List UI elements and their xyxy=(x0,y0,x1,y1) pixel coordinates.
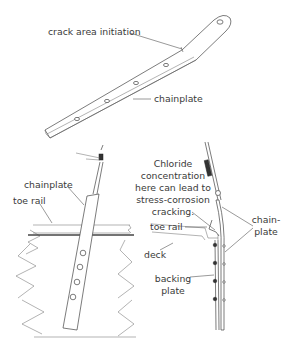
backing-plate-label-2: plate xyxy=(161,285,185,296)
deck-label: deck xyxy=(144,249,167,260)
chainplate-leader-right-b xyxy=(225,228,253,252)
crack-area-label: crack area initiation xyxy=(48,26,141,37)
toe-rail-label-left: toe rail xyxy=(13,195,46,206)
bolt-hole xyxy=(75,117,80,120)
chainplate-label-right-1: chain- xyxy=(252,214,281,225)
chainplate-label-top: chainplate xyxy=(154,93,203,104)
chainplate-label-left: chainplate xyxy=(24,179,73,190)
bolt-hole xyxy=(134,81,139,84)
backing-plate-leader xyxy=(190,275,214,277)
bolt-hole xyxy=(105,99,110,102)
toe-rail-label-right: toe rail xyxy=(150,221,183,232)
chloride-note-line-4: stress-corrosion xyxy=(136,194,210,205)
chainplate-label-right-2: plate xyxy=(254,226,278,237)
chloride-note-line-3: here can lead to xyxy=(135,182,211,193)
exterior-view xyxy=(16,145,136,337)
toe-rail-leader-left xyxy=(40,204,52,223)
chloride-note-line-5: cracking. xyxy=(152,206,194,217)
deck-leader xyxy=(160,243,173,250)
bolt-hole xyxy=(164,63,169,66)
chloride-note-line-1: Chloride xyxy=(154,158,193,169)
chainplate-leader-right-a xyxy=(222,207,253,226)
pin-hole xyxy=(217,20,223,24)
chainplate-diagram: crack area initiation chainplate chainpl… xyxy=(0,0,289,339)
backing-plate-label-1: backing xyxy=(155,273,192,284)
chloride-note-line-2: concentration xyxy=(141,170,205,181)
